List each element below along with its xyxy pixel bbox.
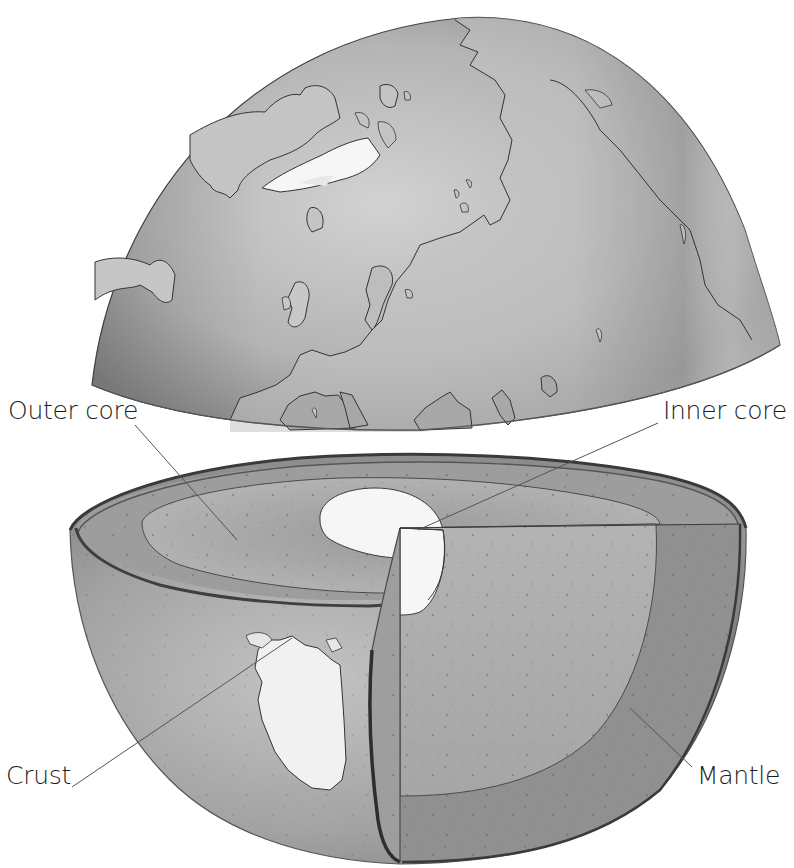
label-mantle: Mantle: [697, 763, 780, 788]
earth-illustration: [0, 0, 794, 868]
lower-hemisphere: [70, 454, 746, 864]
earth-cutaway-diagram: Outer core Inner core Crust Mantle: [0, 0, 794, 868]
upper-hemisphere: [92, 17, 780, 432]
label-outer-core: Outer core: [8, 398, 138, 423]
label-crust: Crust: [6, 763, 71, 788]
label-inner-core: Inner core: [663, 398, 787, 423]
